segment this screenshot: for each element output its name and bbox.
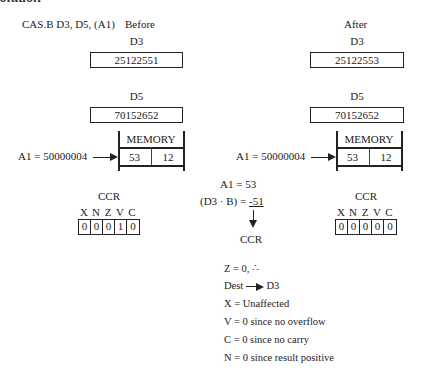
before-ccr-flags: XNZVC (78, 206, 138, 218)
computation-line1: A1 = 53 (220, 178, 256, 190)
after-pointer-arrow-line (311, 157, 329, 158)
note-v: V = 0 since no overflow (224, 316, 326, 327)
after-ccr-flags: XNZVC (335, 206, 395, 218)
note-dest-prefix: Dest (224, 280, 243, 291)
note-n: N = 0 since result positive (224, 352, 334, 363)
after-d5-register: 70152652 (310, 107, 404, 123)
after-pointer-label: A1 = 50000004 (236, 150, 305, 162)
computation-result: -51 (249, 195, 264, 207)
bit-n: 0 (348, 220, 360, 234)
bit-z: 0 (103, 220, 115, 234)
after-ccr-bits: 00000 (335, 219, 397, 235)
note-dest-target: D3 (267, 280, 280, 291)
after-memory-cell-0: 53 (336, 149, 369, 165)
instruction-label: CAS.B D3, D5, (A1) (22, 18, 115, 30)
bit-z: 0 (360, 220, 372, 234)
after-d3-label: D3 (310, 35, 404, 47)
flag-z: Z (359, 206, 371, 218)
before-memory-cell-0: 53 (118, 149, 151, 165)
section-title: olution (0, 0, 41, 6)
flag-x: X (335, 206, 347, 218)
flag-n: N (347, 206, 359, 218)
note-z: Z = 0, ∴ (224, 262, 259, 274)
after-d3-register: 25122553 (310, 52, 404, 68)
bit-c: 0 (127, 220, 139, 234)
flag-c: C (126, 206, 138, 218)
before-d5-register: 70152652 (90, 107, 183, 123)
before-memory: MEMORY 53 12 (118, 131, 184, 171)
dest-arrow-icon (246, 283, 264, 291)
bit-v: 0 (372, 220, 384, 234)
flag-c: C (383, 206, 395, 218)
flag-n: N (90, 206, 102, 218)
note-x: X = Unaffected (224, 298, 289, 309)
after-d5-label: D5 (310, 90, 404, 102)
after-memory: MEMORY 53 12 (336, 131, 402, 171)
flag-v: V (371, 206, 383, 218)
after-memory-cell-1: 12 (370, 149, 402, 165)
bit-x: 0 (336, 220, 348, 234)
bit-x: 0 (79, 220, 91, 234)
note-dest: Dest D3 (224, 280, 279, 291)
after-pointer-arrow-icon (328, 153, 336, 161)
after-label: After (344, 18, 367, 30)
before-pointer-arrow-line (93, 157, 111, 158)
flag-z: Z (102, 206, 114, 218)
before-d5-label: D5 (90, 90, 183, 102)
bit-n: 0 (91, 220, 103, 234)
flag-x: X (78, 206, 90, 218)
before-pointer-arrow-icon (110, 153, 118, 161)
before-ccr-bits: 00010 (78, 219, 140, 235)
result-down-arrow-icon (249, 220, 257, 228)
computation-line2: (D3 · B) = -51 (200, 195, 264, 207)
before-pointer-label: A1 = 50000004 (18, 150, 87, 162)
bit-v: 1 (115, 220, 127, 234)
before-d3-label: D3 (90, 35, 183, 47)
before-memory-title: MEMORY (118, 133, 184, 145)
before-label: Before (125, 18, 155, 30)
before-ccr-label: CCR (78, 190, 140, 202)
computation-expression: (D3 · B) = (200, 195, 246, 207)
after-memory-title: MEMORY (336, 133, 402, 145)
bit-c: 0 (384, 220, 396, 234)
before-d3-register: 25122551 (90, 52, 183, 68)
flag-v: V (114, 206, 126, 218)
before-memory-cell-1: 12 (152, 149, 184, 165)
computation-target: CCR (240, 233, 262, 245)
after-ccr-label: CCR (335, 190, 397, 202)
note-c: C = 0 since no carry (224, 334, 309, 345)
